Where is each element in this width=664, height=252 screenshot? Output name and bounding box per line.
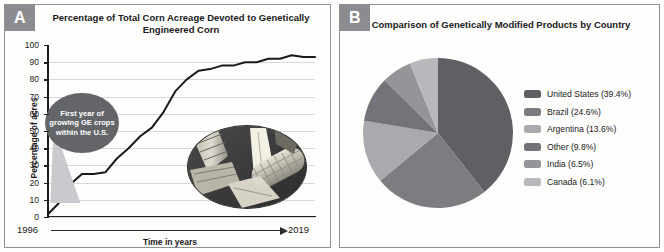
y-axis-tick-label: 10: [13, 195, 39, 205]
legend-swatch: [524, 125, 541, 133]
y-axis-tick-label: 50: [13, 126, 39, 136]
x-axis-arrow: [51, 230, 281, 231]
y-axis-tick-label: 0: [13, 212, 39, 222]
legend-swatch: [524, 108, 541, 116]
pie-legend: United States (39.4%)Brazil (24.6%)Argen…: [524, 89, 656, 194]
x-axis-end-year: 2019: [288, 224, 309, 235]
y-axis-tick: [44, 79, 49, 80]
y-axis-tick-label: 30: [13, 160, 39, 170]
legend-label: Other (9.8%): [547, 142, 596, 152]
panel-a: A Percentage of Total Corn Acreage Devot…: [4, 4, 331, 248]
legend-label: India (6.5%): [547, 159, 593, 169]
y-axis-tick-label: 60: [13, 109, 39, 119]
panel-a-badge: A: [5, 5, 35, 31]
figure-canvas: A Percentage of Total Corn Acreage Devot…: [0, 0, 664, 252]
legend-label: Canada (6.1%): [547, 177, 605, 187]
y-axis-tick: [44, 97, 49, 98]
y-axis-tick-label: 70: [13, 92, 39, 102]
legend-swatch: [524, 160, 541, 168]
x-axis-title: Time in years: [65, 237, 275, 247]
panel-b-badge: B: [340, 5, 370, 31]
y-axis-tick: [44, 45, 49, 46]
legend-label: United States (39.4%): [547, 89, 631, 99]
legend-label: Argentina (13.6%): [547, 124, 616, 134]
first-year-callout: First year of growing GE crops within th…: [45, 93, 119, 153]
y-axis-tick-label: 100: [13, 40, 39, 50]
y-axis-tick: [44, 62, 49, 63]
y-axis-tick: [44, 131, 49, 132]
legend-item[interactable]: United States (39.4%): [524, 89, 656, 99]
panel-b-title: Comparison of Genetically Modified Produ…: [370, 19, 632, 31]
panel-a-title: Percentage of Total Corn Acreage Devoted…: [41, 12, 321, 35]
y-axis-tick-label: 90: [13, 57, 39, 67]
legend-label: Brazil (24.6%): [547, 107, 601, 117]
y-axis-title: Percentage of acres: [29, 63, 39, 213]
corn-ears-photo: [187, 125, 307, 209]
legend-item[interactable]: Argentina (13.6%): [524, 124, 656, 134]
y-axis-tick-label: 80: [13, 74, 39, 84]
panel-b: B Comparison of Genetically Modified Pro…: [339, 4, 660, 248]
y-axis-tick: [44, 183, 49, 184]
y-axis-tick: [44, 200, 49, 201]
legend-swatch: [524, 90, 541, 98]
x-axis-start-year: 1996: [17, 224, 38, 235]
y-axis-tick-label: 40: [13, 143, 39, 153]
y-axis-tick: [44, 165, 49, 166]
legend-item[interactable]: Other (9.8%): [524, 142, 656, 152]
gm-products-pie-chart: [362, 57, 514, 209]
y-axis-tick: [44, 217, 49, 218]
legend-item[interactable]: India (6.5%): [524, 159, 656, 169]
legend-swatch: [524, 143, 541, 151]
legend-item[interactable]: Brazil (24.6%): [524, 107, 656, 117]
legend-swatch: [524, 178, 541, 186]
y-axis-tick: [44, 148, 49, 149]
y-axis-tick: [44, 114, 49, 115]
y-axis-tick-label: 20: [13, 178, 39, 188]
legend-item[interactable]: Canada (6.1%): [524, 177, 656, 187]
